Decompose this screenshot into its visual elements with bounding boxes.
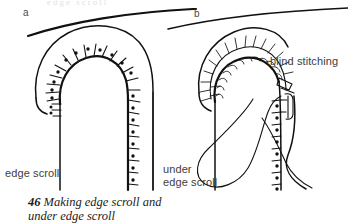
under-edge-scroll-label-line1: under	[163, 163, 192, 176]
figure-linework	[0, 0, 348, 224]
caption-line-2: under edge scroll	[28, 209, 115, 223]
panel-letter-a: a	[23, 7, 29, 18]
top-sweep-curves	[28, 8, 348, 36]
panel-letter-b: b	[194, 8, 200, 19]
panel-b-drawing	[197, 28, 312, 191]
edge-scroll-label: edge scroll	[5, 167, 59, 180]
under-edge-scroll-label-line2: edge scroll	[163, 176, 217, 189]
panel-b-vertical-stitches	[272, 100, 281, 191]
blind-stitching-label: blind stitching	[270, 55, 338, 68]
panel-a-vertical-stitches	[128, 94, 140, 185]
figure-container: edge scroll	[0, 0, 348, 224]
figure-caption: 46Making edge scroll and under edge scro…	[28, 196, 328, 223]
under-scroll-bracket-glyph	[281, 94, 293, 120]
caption-number: 46	[28, 195, 41, 209]
caption-line-1: Making edge scroll and	[44, 195, 162, 209]
panel-a-drawing	[36, 26, 153, 190]
